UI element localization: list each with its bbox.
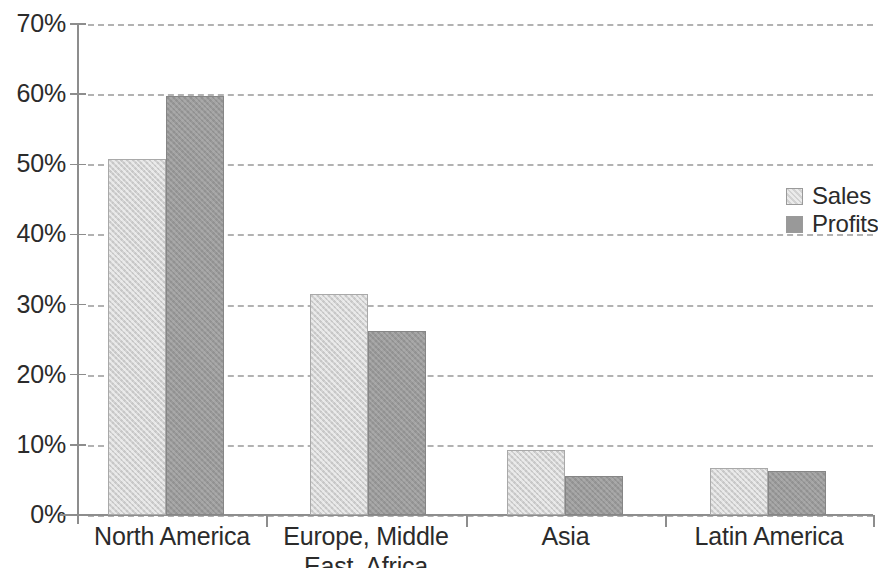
bar-profits-1 [368, 331, 426, 515]
x-axis-label-2: Asia [466, 521, 665, 551]
bar-profits-0 [166, 96, 224, 515]
legend-swatch-profits-icon [786, 216, 803, 233]
y-axis-tick-label: 10% [4, 432, 66, 457]
bar-sales-2 [507, 450, 565, 515]
bar-chart: 70%60%50%40%30%20%10%0% North AmericaEur… [0, 0, 878, 568]
legend-item-profits: Profits [786, 210, 878, 238]
legend-label-sales: Sales [812, 184, 871, 208]
bar-sales-3 [710, 468, 768, 515]
y-axis-tick-label: 20% [4, 362, 66, 387]
y-axis-tick-label: 0% [4, 502, 66, 527]
bar-sales-0 [108, 159, 166, 515]
plot-area [78, 24, 873, 515]
x-axis-label-1: Europe, Middle East, Africa [266, 521, 466, 568]
y-axis-tick-label: 40% [4, 221, 66, 246]
y-axis-tick-label: 30% [4, 292, 66, 317]
legend-item-sales: Sales [786, 182, 878, 210]
x-axis-label-3: Latin America [665, 521, 873, 551]
legend-label-profits: Profits [812, 212, 878, 236]
category-separator-tick [873, 515, 875, 527]
bar-profits-3 [768, 471, 826, 515]
legend-swatch-sales-icon [786, 188, 803, 205]
y-axis-tick-label: 60% [4, 81, 66, 106]
y-axis-tick-label: 70% [4, 11, 66, 36]
chart-legend: Sales Profits [786, 182, 878, 238]
bar-profits-2 [565, 476, 623, 515]
x-axis-label-0: North America [78, 521, 266, 551]
y-axis-tick-label: 50% [4, 151, 66, 176]
bar-sales-1 [310, 294, 368, 515]
